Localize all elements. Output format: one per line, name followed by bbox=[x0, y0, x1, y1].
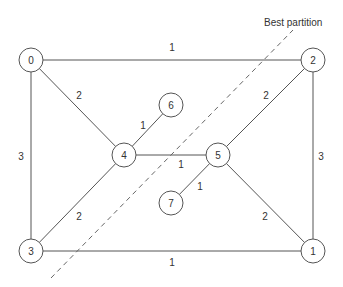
edge-weight-label: 2 bbox=[262, 211, 268, 222]
edge-0-4 bbox=[31, 60, 124, 155]
edge-weight-label: 2 bbox=[76, 211, 82, 222]
node-label: 6 bbox=[168, 100, 174, 111]
node-3: 3 bbox=[19, 239, 43, 263]
best-partition-line bbox=[51, 30, 293, 278]
node-1: 1 bbox=[301, 239, 325, 263]
node-4: 4 bbox=[112, 143, 136, 167]
edges-layer bbox=[31, 60, 313, 251]
edge-weight-label: 2 bbox=[76, 90, 82, 101]
node-label: 4 bbox=[121, 150, 127, 161]
node-7: 7 bbox=[159, 191, 183, 215]
graph-diagram: 01234567 13232122111 Best partition bbox=[0, 0, 343, 287]
node-label: 7 bbox=[168, 198, 174, 209]
node-label: 5 bbox=[215, 150, 221, 161]
edge-2-5 bbox=[218, 60, 313, 155]
node-2: 2 bbox=[301, 48, 325, 72]
edge-weight-label: 1 bbox=[140, 120, 146, 131]
node-label: 3 bbox=[28, 246, 34, 257]
edge-weight-label: 1 bbox=[169, 42, 175, 53]
edge-weight-label: 1 bbox=[178, 159, 184, 170]
edge-weight-label: 2 bbox=[263, 90, 269, 101]
node-label: 1 bbox=[310, 246, 316, 257]
best-partition-label: Best partition bbox=[264, 17, 322, 28]
edge-weight-label: 1 bbox=[169, 257, 175, 268]
node-5: 5 bbox=[206, 143, 230, 167]
edge-weight-label: 1 bbox=[197, 181, 203, 192]
edge-weight-label: 3 bbox=[318, 151, 324, 162]
node-label: 0 bbox=[28, 55, 34, 66]
edge-3-4 bbox=[31, 155, 124, 251]
edge-weight-label: 3 bbox=[18, 151, 24, 162]
node-0: 0 bbox=[19, 48, 43, 72]
edge-5-1 bbox=[218, 155, 313, 251]
node-6: 6 bbox=[159, 93, 183, 117]
node-label: 2 bbox=[310, 55, 316, 66]
